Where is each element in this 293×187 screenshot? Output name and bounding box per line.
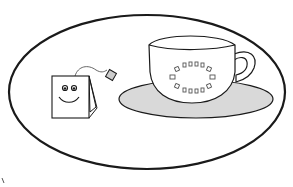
tea-bag	[52, 76, 89, 118]
illustration	[0, 0, 293, 187]
stray-mark	[2, 178, 4, 183]
